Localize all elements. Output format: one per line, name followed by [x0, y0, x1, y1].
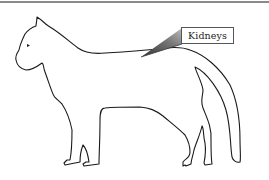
callout-pointer: [141, 28, 182, 57]
cat-eye: [27, 44, 30, 47]
kidneys-callout-label: Kidneys: [181, 27, 234, 44]
kidneys-label-text: Kidneys: [188, 30, 227, 41]
